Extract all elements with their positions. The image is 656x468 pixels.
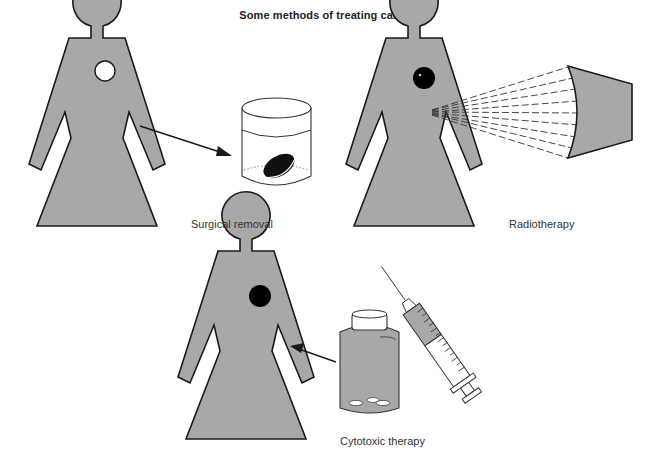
figure-surgical xyxy=(29,0,165,226)
pill-bottle-icon xyxy=(340,310,399,413)
specimen-jar-icon xyxy=(242,98,311,185)
caption-radiotherapy: Radiotherapy xyxy=(509,218,574,230)
tumour-removed-hole xyxy=(95,61,115,81)
tumour-black xyxy=(249,285,271,307)
radiation-source-icon xyxy=(568,66,632,158)
caption-surgical: Surgical removal xyxy=(191,218,273,230)
diagram-canvas xyxy=(0,0,656,468)
tumour-black xyxy=(413,67,435,89)
figure-radiotherapy xyxy=(346,0,482,226)
caption-cytotoxic: Cytotoxic therapy xyxy=(340,435,425,447)
